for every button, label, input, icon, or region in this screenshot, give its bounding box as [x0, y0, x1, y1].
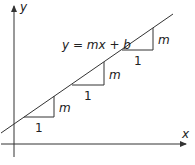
slope-triangle-1: 1 m — [24, 96, 71, 135]
slope-triangle-2: 1 m — [72, 62, 121, 103]
linear-function-line — [1, 14, 173, 133]
slope-diagram: y x y = mx + b 1 m 1 m 1 m — [0, 0, 195, 165]
equation-label: y = mx + b — [61, 38, 131, 52]
rise-label: m — [59, 101, 71, 115]
run-label: 1 — [35, 121, 43, 135]
rise-label: m — [158, 33, 170, 47]
rise-label: m — [109, 68, 121, 82]
y-axis-label: y — [19, 0, 28, 14]
run-label: 1 — [84, 89, 92, 103]
x-axis-label: x — [181, 127, 190, 141]
run-label: 1 — [134, 54, 142, 68]
diagram-svg: y x y = mx + b 1 m 1 m 1 m — [0, 0, 195, 165]
